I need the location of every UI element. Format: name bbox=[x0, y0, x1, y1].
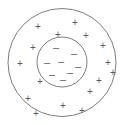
positive-charge-symbol: + bbox=[72, 17, 78, 28]
positive-charge-symbol: + bbox=[110, 67, 116, 78]
figure-container: ++++++++++++++++ –––––––– bbox=[0, 0, 126, 125]
positive-charge-symbol: + bbox=[96, 75, 102, 86]
positive-charge-symbol: + bbox=[60, 100, 66, 111]
positive-charge-symbol: + bbox=[17, 58, 23, 69]
positive-charge-symbol: + bbox=[35, 21, 41, 32]
positive-charge-symbol: + bbox=[100, 40, 106, 51]
negative-charge-symbol: – bbox=[60, 73, 67, 85]
positive-charge-symbol: + bbox=[83, 30, 89, 41]
charge-distribution-diagram: ++++++++++++++++ –––––––– bbox=[0, 0, 126, 125]
negative-charge-symbol: – bbox=[67, 66, 74, 78]
negative-charge-symbol: – bbox=[71, 47, 78, 59]
positive-charge-symbol: + bbox=[55, 29, 61, 40]
negative-charges-group: –––––––– bbox=[44, 41, 82, 85]
negative-charge-symbol: – bbox=[58, 55, 65, 67]
positive-charge-symbol: + bbox=[37, 76, 43, 87]
positive-charge-symbol: + bbox=[87, 86, 93, 97]
positive-charge-symbol: + bbox=[33, 108, 39, 119]
positive-charge-symbol: + bbox=[30, 42, 36, 53]
positive-charge-symbol: + bbox=[25, 93, 31, 104]
negative-charge-symbol: – bbox=[53, 41, 60, 53]
negative-charge-symbol: – bbox=[49, 68, 56, 80]
negative-charge-symbol: – bbox=[75, 60, 82, 72]
negative-charge-symbol: – bbox=[44, 56, 51, 68]
positive-charge-symbol: + bbox=[79, 105, 85, 116]
